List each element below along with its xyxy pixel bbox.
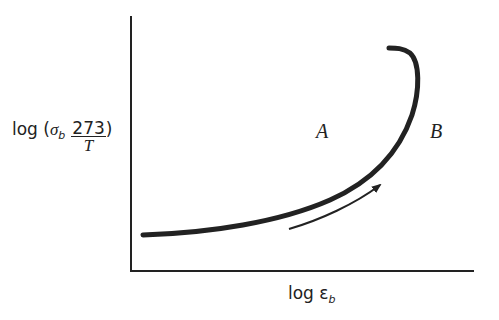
region-label-a: A: [316, 120, 328, 143]
y-label-closing: ): [106, 119, 113, 139]
y-label-subscript: b: [58, 129, 65, 142]
chart-canvas: [0, 0, 499, 320]
direction-arrow: [289, 185, 380, 229]
y-label-fraction: 273T: [71, 120, 105, 155]
x-label-subscript: b: [329, 293, 336, 306]
y-label-denominator: T: [71, 137, 105, 155]
region-label-b: B: [430, 120, 442, 143]
failure-envelope-curve: [143, 48, 418, 235]
x-axis-label: log εb: [288, 283, 336, 306]
x-label-prefix: log ε: [288, 283, 329, 303]
y-label-numerator: 273: [71, 120, 105, 137]
y-label-prefix: log (: [12, 119, 50, 139]
y-axis-label: log (σb273T): [12, 112, 112, 147]
